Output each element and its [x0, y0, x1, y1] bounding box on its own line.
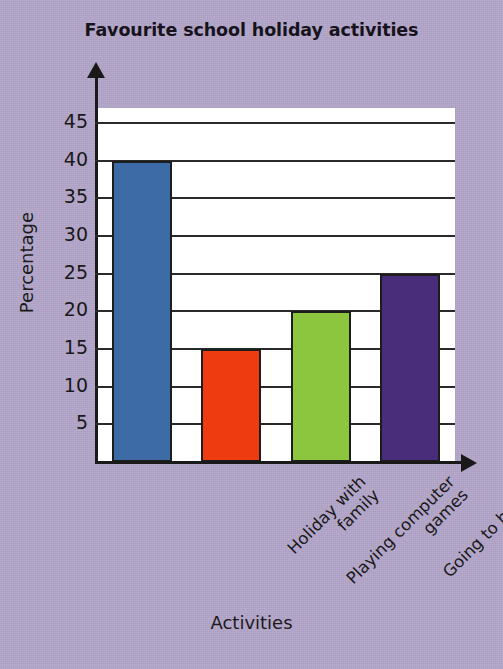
y-axis-tick-label: 35	[48, 185, 88, 207]
x-axis-line	[95, 461, 463, 464]
y-axis-tick-label: 25	[48, 261, 88, 283]
y-axis-arrow-icon	[87, 62, 105, 78]
plot-area	[97, 108, 455, 462]
y-axis-tick	[95, 310, 104, 312]
y-axis-line	[95, 74, 98, 464]
x-axis-arrow-icon	[461, 454, 477, 472]
y-axis-tick-label: 45	[48, 110, 88, 132]
y-axis-tick-label: 5	[48, 411, 88, 433]
bar-2	[201, 349, 261, 462]
y-axis-tick-label: 20	[48, 298, 88, 320]
y-axis-tick	[95, 160, 104, 162]
y-axis-title: Percentage	[16, 193, 37, 333]
bar-1	[112, 161, 172, 462]
y-axis-tick	[95, 235, 104, 237]
y-axis-tick-label: 40	[48, 148, 88, 170]
y-axis-tick	[95, 273, 104, 275]
y-axis-tick-label: 10	[48, 374, 88, 396]
bar-4	[380, 274, 440, 462]
y-axis-tick	[95, 386, 104, 388]
y-axis-tick-label: 15	[48, 336, 88, 358]
y-axis-tick-label: 30	[48, 223, 88, 245]
bar-3	[291, 311, 351, 462]
chart-page: Favourite school holiday activities Perc…	[0, 0, 503, 669]
y-axis-tick	[95, 423, 104, 425]
gridline	[97, 122, 455, 124]
chart-title: Favourite school holiday activities	[0, 20, 503, 40]
y-axis-tick	[95, 122, 104, 124]
y-axis-tick	[95, 348, 104, 350]
y-axis-tick	[95, 197, 104, 199]
